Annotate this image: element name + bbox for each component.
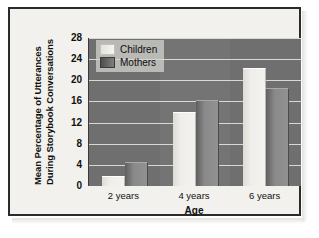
y-axis-tick-label: 8 — [56, 139, 82, 149]
x-axis-tick-label: 4 years — [159, 190, 230, 201]
figure-shadow-bottom — [12, 218, 305, 224]
legend-label: Children — [120, 44, 157, 55]
y-axis-tick-label: 0 — [56, 181, 82, 191]
x-axis-tick-label: 6 years — [229, 190, 300, 201]
bar-mothers-4-years — [196, 100, 219, 186]
y-axis-title-line-2: During Storybook Conversations — [44, 39, 55, 185]
legend-item: Children — [100, 43, 157, 56]
y-axis-tick-label: 24 — [56, 54, 82, 64]
legend-item: Mothers — [100, 56, 157, 69]
bar-mothers-2-years — [125, 162, 148, 186]
legend-label: Mothers — [120, 57, 156, 68]
bar-children-2-years — [102, 176, 125, 186]
bar-children-6-years — [243, 68, 266, 186]
x-axis-tick-label: 2 years — [88, 190, 159, 201]
bar-children-4-years — [173, 112, 196, 186]
y-axis-title-line-1: Mean Percentage of Utterances — [32, 46, 43, 185]
bar-mothers-6-years — [266, 88, 289, 186]
chart-frame: Mean Percentage of Utterances During Sto… — [8, 7, 301, 216]
y-axis-tick-labels: 0481216202428 — [56, 31, 82, 193]
legend-swatch-icon — [100, 44, 115, 55]
plot-area: ChildrenMothers — [88, 38, 301, 186]
y-axis-tick-label: 20 — [56, 75, 82, 85]
y-axis-tick-label: 4 — [56, 160, 82, 170]
legend: ChildrenMothers — [96, 40, 164, 72]
figure: Mean Percentage of Utterances During Sto… — [0, 0, 319, 238]
legend-swatch-icon — [100, 57, 115, 68]
x-axis-tick-labels: 2 years4 years6 years — [88, 190, 300, 204]
x-axis-title: Age — [88, 205, 300, 216]
figure-shadow-right — [302, 11, 308, 221]
y-axis-tick-label: 28 — [56, 33, 82, 43]
y-axis-tick-label: 16 — [56, 96, 82, 106]
y-axis-tick-label: 12 — [56, 118, 82, 128]
